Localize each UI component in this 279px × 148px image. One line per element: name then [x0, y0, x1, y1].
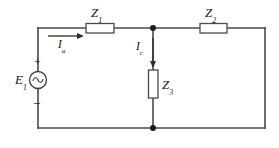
polarity-plus-sign: + — [34, 56, 41, 68]
impedance-z1-subscript: 1 — [98, 16, 102, 25]
node-bottom-junction — [150, 125, 156, 131]
current-ic-label: Ic — [136, 41, 143, 53]
current-ia-arrow — [48, 33, 84, 39]
impedance-z3-subscript: 3 — [169, 88, 173, 97]
voltage-source-symbol-text: E — [15, 72, 23, 87]
circuit-svg — [0, 0, 279, 148]
current-ia-head — [77, 33, 84, 39]
voltage-source-label: E1 — [15, 73, 27, 86]
current-ic-arrow — [150, 38, 156, 68]
current-ia-label: Ia — [58, 39, 65, 51]
voltage-source-subscript: 1 — [23, 83, 27, 92]
current-ia-subscript: a — [62, 47, 66, 55]
impedance-z1-label: Z1 — [91, 6, 102, 19]
impedance-z2-label: Z2 — [205, 6, 216, 19]
impedance-z2-subscript: 2 — [212, 16, 216, 25]
current-ic-head — [150, 61, 156, 68]
voltage-source-symbol — [30, 72, 47, 89]
current-ic-subscript: c — [140, 49, 143, 57]
node-top-junction — [150, 25, 156, 31]
circuit-diagram: Z1 Z2 Z3 Ia Ic E1 + – — [0, 0, 279, 148]
impedance-z3-label: Z3 — [162, 78, 173, 91]
polarity-minus-sign: – — [34, 96, 40, 108]
impedance-z3-box — [149, 70, 159, 98]
